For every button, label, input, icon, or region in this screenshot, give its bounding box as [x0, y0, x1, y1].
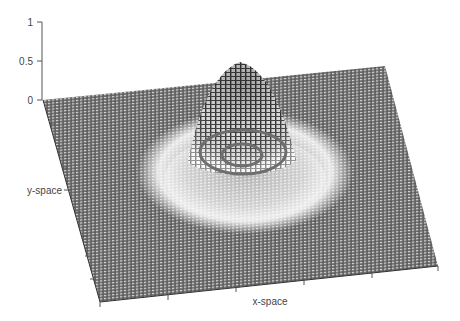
z-tick-label: 0.5 [19, 56, 33, 67]
z-tick-label: 1 [27, 17, 33, 28]
surface-figure: 1 0.5 0 y-space [0, 0, 460, 321]
x-axis-label: x-space [252, 296, 287, 307]
y-axis-label: y-space [27, 185, 62, 196]
z-axis: 1 0.5 0 [19, 17, 42, 106]
z-tick-label: 0 [27, 95, 33, 106]
